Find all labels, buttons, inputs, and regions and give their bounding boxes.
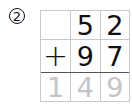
grid-cell-ones: 7 <box>100 40 129 72</box>
plus-operator: + <box>41 40 70 72</box>
problem-number-badge: 2 <box>9 8 25 24</box>
grid-row-answer: 1 4 9 <box>41 73 129 101</box>
grid-cell-tens: 9 <box>70 40 99 72</box>
grid-row-top-operand: 5 2 <box>41 11 129 40</box>
answer-cell-hundreds[interactable]: 1 <box>41 73 70 101</box>
grid-row-bottom-operand: + 9 7 <box>41 40 129 73</box>
answer-cell-tens[interactable]: 4 <box>70 73 99 101</box>
answer-cell-ones[interactable]: 9 <box>100 73 129 101</box>
grid-cell-ones: 2 <box>100 11 129 39</box>
grid-cell <box>41 11 70 39</box>
grid-cell-tens: 5 <box>70 11 99 39</box>
problem-number: 2 <box>13 10 21 23</box>
addition-grid: 5 2 + 9 7 1 4 9 <box>40 10 130 102</box>
